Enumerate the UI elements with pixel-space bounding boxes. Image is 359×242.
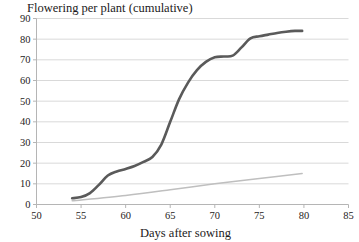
series-line-cumulative-flowering-curve [72, 31, 302, 198]
gridlines [37, 19, 349, 184]
y-tick-label: 30 [20, 137, 31, 148]
x-tick-label: 50 [31, 210, 42, 221]
y-tick-label: 0 [25, 199, 30, 210]
x-tick-label: 65 [165, 210, 176, 221]
y-tick-label: 60 [20, 75, 31, 86]
data-series [72, 31, 302, 201]
x-tick-label: 70 [210, 210, 221, 221]
x-tick-label: 60 [120, 210, 131, 221]
y-tick-label: 90 [20, 13, 31, 24]
x-axis-tick-labels: 5055606570758085 [31, 210, 354, 221]
y-tick-label: 70 [20, 54, 31, 65]
chart-plot-area: 9080706050403020100 5055606570758085 [0, 0, 359, 242]
y-tick-label: 80 [20, 34, 31, 45]
y-tick-label: 10 [20, 178, 31, 189]
axis-lines [33, 19, 349, 209]
y-axis-tick-labels: 9080706050403020100 [20, 13, 31, 210]
x-tick-label: 80 [299, 210, 310, 221]
y-tick-label: 40 [20, 116, 31, 127]
x-axis-title: Days after sowing [0, 226, 359, 240]
y-tick-label: 50 [20, 96, 31, 107]
x-tick-label: 55 [76, 210, 87, 221]
x-tick-label: 85 [343, 210, 354, 221]
x-axis-title-text: Days after sowing [140, 226, 231, 240]
y-tick-label: 20 [20, 158, 31, 169]
x-tick-label: 75 [254, 210, 265, 221]
chart-container: Flowering per plant (cumulative) 9080706… [0, 0, 359, 242]
